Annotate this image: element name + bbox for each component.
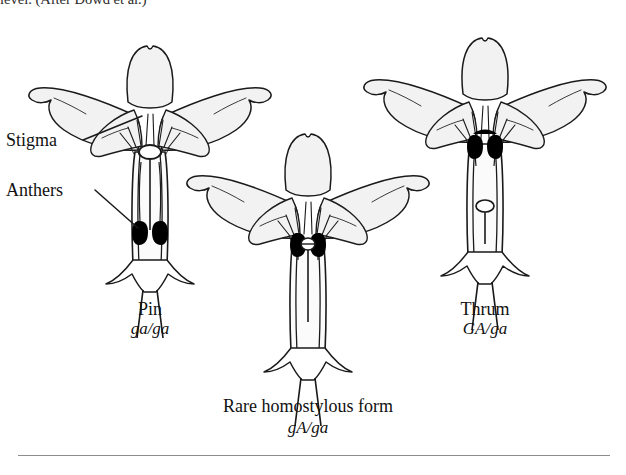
- figure-bottom-rule: [18, 455, 610, 456]
- callout-label-stigma: Stigma: [6, 130, 57, 151]
- flower-genotype-pin: ga/ga: [131, 319, 170, 339]
- flower-name-thrum: Thrum: [461, 299, 510, 320]
- homostylous-stigma: [301, 238, 315, 250]
- flower-name-pin: Pin: [138, 299, 162, 320]
- callout-label-anthers: Anthers: [6, 180, 63, 201]
- flower-homostylous: [187, 134, 429, 426]
- flower-genotype-homostylous: gA/ga: [288, 418, 329, 438]
- flower-genotype-thrum: GA/ga: [463, 319, 507, 339]
- pin-stigma: [139, 145, 161, 159]
- flower-name-homostylous: Rare homostylous form: [223, 396, 393, 417]
- thrum-stigma: [476, 200, 494, 212]
- heterostyly-figure: level. (After Dowd et al.): [0, 0, 626, 475]
